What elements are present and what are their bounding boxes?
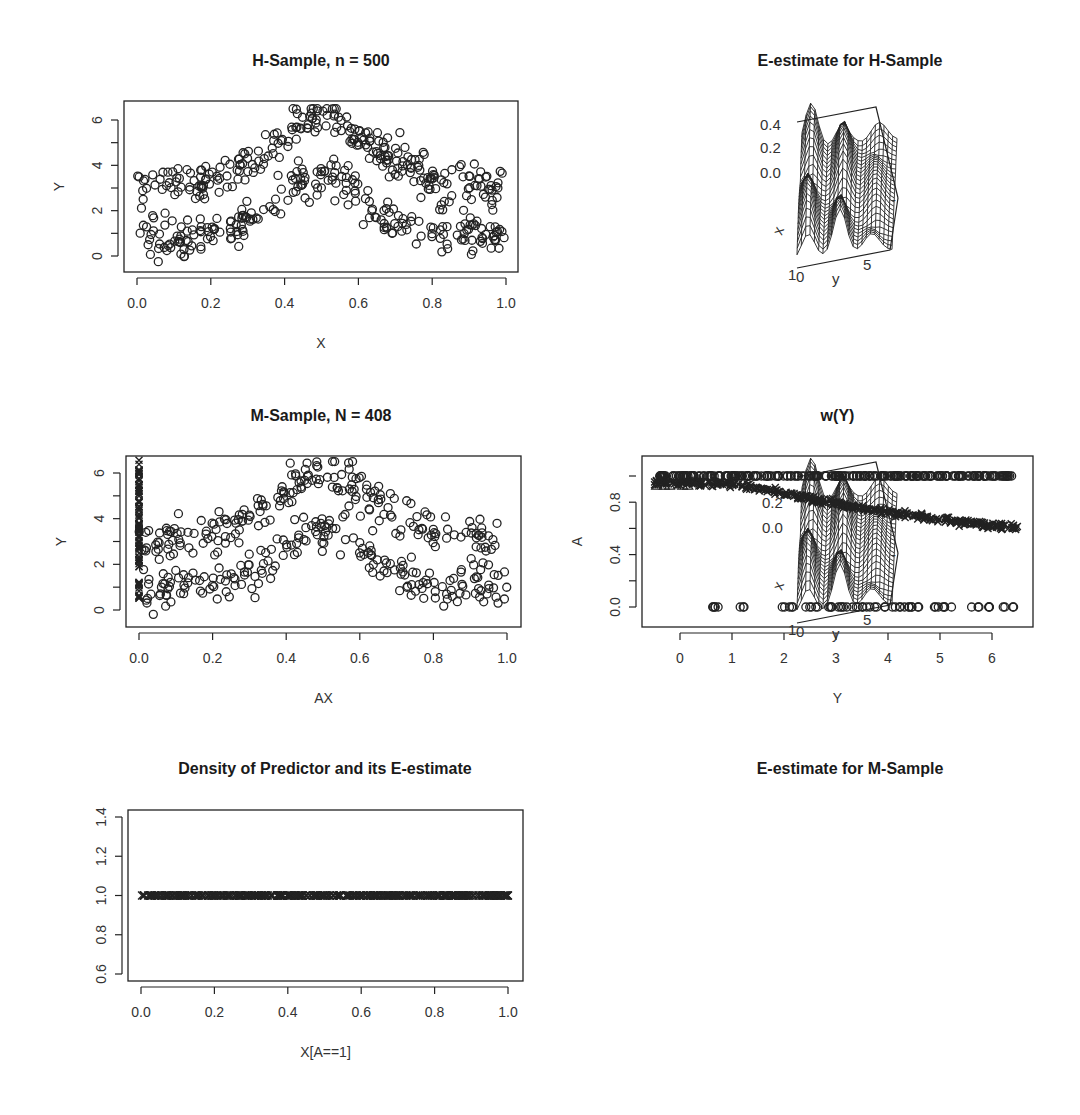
x-axis-label: x (769, 579, 788, 592)
surface-mesh (797, 458, 898, 623)
z-tick-label: 0.2 (762, 494, 783, 511)
z-tick-label: 0.0 (762, 519, 783, 536)
y-axis-label: y (832, 625, 840, 642)
tick-mark-dot: - (891, 546, 896, 563)
y-corner-tick-0: 0 (796, 623, 804, 640)
surface-plot-e-estimate-m: 0.20.0x10y5- (0, 0, 1080, 1115)
y-corner-tick-5: 5 (863, 611, 871, 628)
